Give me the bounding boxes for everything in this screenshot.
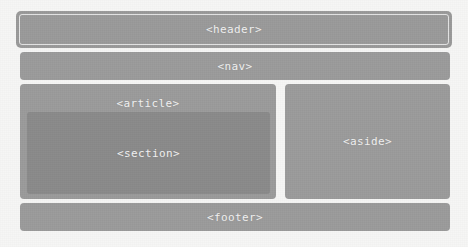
nav-block-label: <nav> (217, 61, 252, 72)
article-block-label: <article> (116, 98, 179, 109)
layout-diagram: <header> <nav> <article> <section> <asid… (0, 0, 468, 247)
footer-block-label: <footer> (207, 212, 263, 223)
footer-block: <footer> (20, 203, 450, 231)
aside-block-label: <aside> (343, 136, 392, 147)
aside-block: <aside> (285, 84, 450, 199)
header-block: <header> (16, 11, 452, 48)
header-block-label: <header> (206, 24, 262, 35)
section-block-label: <section> (117, 148, 180, 159)
section-block: <section> (27, 112, 270, 194)
nav-block: <nav> (20, 52, 450, 80)
